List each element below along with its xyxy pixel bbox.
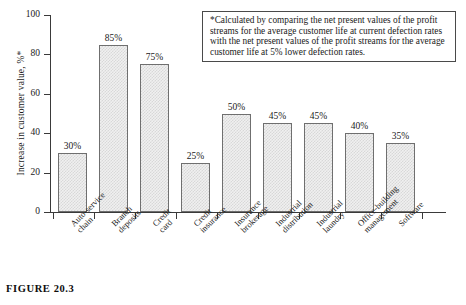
- bar: [263, 123, 292, 212]
- y-tick-label: 20: [0, 167, 40, 177]
- y-tick-label: 0: [0, 206, 40, 216]
- y-tick-mark: [44, 133, 50, 134]
- y-tick-mark: [44, 173, 50, 174]
- y-tick-mark: [44, 15, 50, 16]
- y-axis-line: [50, 15, 51, 213]
- bar-value-label: 30%: [50, 141, 95, 151]
- y-tick-label: 60: [0, 88, 40, 98]
- bar-value-label: 35%: [378, 131, 423, 141]
- bar: [222, 114, 251, 213]
- figure-caption-subtitle: [6, 297, 460, 305]
- figure-container: Increase in customer value, %* 020406080…: [0, 0, 466, 305]
- y-tick-mark: [44, 94, 50, 95]
- y-tick-mark: [44, 212, 50, 213]
- y-tick-mark: [44, 54, 50, 55]
- bar: [99, 45, 128, 212]
- bar-value-label: 75%: [132, 52, 177, 62]
- bar: [58, 153, 87, 212]
- bar: [140, 64, 169, 212]
- bar-value-label: 25%: [173, 151, 218, 161]
- bar: [345, 133, 374, 212]
- figure-caption-number: FIGURE 20.3: [6, 283, 74, 294]
- bar-value-label: 45%: [255, 111, 300, 121]
- y-tick-label: 100: [0, 9, 40, 19]
- bar-value-label: 85%: [91, 33, 136, 43]
- y-tick-label: 40: [0, 127, 40, 137]
- bar-value-label: 50%: [214, 102, 259, 112]
- x-tick-mark: [422, 213, 423, 219]
- x-tick-mark: [53, 213, 54, 219]
- footnote-annotation-box: *Calculated by comparing the net present…: [202, 11, 456, 62]
- bar: [304, 123, 333, 212]
- bar: [181, 163, 210, 212]
- y-axis-title: Increase in customer value, %*: [16, 13, 26, 213]
- bar-value-label: 45%: [296, 111, 341, 121]
- y-tick-label: 80: [0, 48, 40, 58]
- bar-value-label: 40%: [337, 121, 382, 131]
